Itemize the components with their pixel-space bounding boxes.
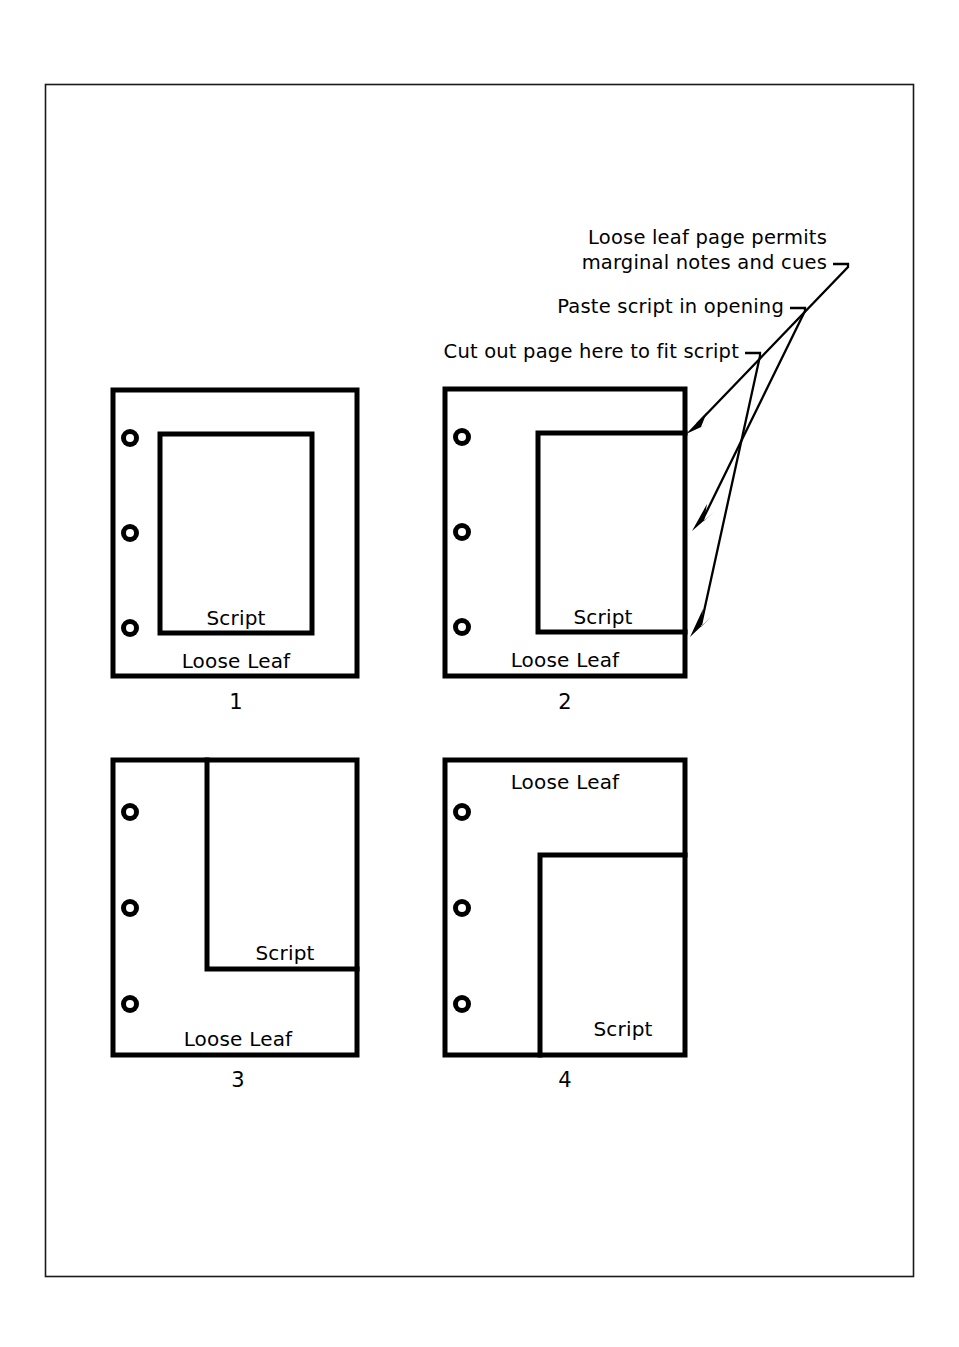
punch-hole-bore [126, 529, 134, 537]
figure-1-script-outline [160, 434, 312, 633]
figure-4: Loose Leaf Script 4 [445, 760, 685, 1092]
arrowhead-cut-out-page [690, 609, 711, 637]
diagram-canvas: Loose leaf page permits marginal notes a… [0, 0, 959, 1347]
punch-hole-bore [126, 624, 134, 632]
figure-4-script-label: Script [593, 1017, 652, 1041]
figure-2: Script Loose Leaf 2 [445, 389, 685, 714]
leader-line-cut-out-page [701, 353, 760, 625]
punch-hole-bore [126, 1000, 134, 1008]
punch-hole-bore [458, 904, 466, 912]
figure-3-script-label: Script [255, 941, 314, 965]
annotation-cut-out-page-line1: Cut out page here to fit script [444, 340, 740, 363]
punch-hole-bore [458, 808, 466, 816]
punch-hole-bore [126, 434, 134, 442]
annotation-loose-leaf-permits-line1: Loose leaf page permits [588, 226, 827, 249]
figure-3-script-opening-outline [207, 760, 357, 969]
figure-2-punch-holes [453, 428, 471, 636]
figure-3-loose-leaf-label: Loose Leaf [184, 1027, 293, 1051]
punch-hole-bore [458, 1000, 466, 1008]
arrowhead-loose-leaf-permits [686, 412, 712, 434]
figure-4-punch-holes [453, 803, 471, 1013]
figure-1-number: 1 [229, 690, 242, 714]
figure-1-script-label: Script [206, 606, 265, 630]
figure-3-loose-leaf-outline [113, 760, 357, 1055]
figure-4-loose-leaf-label: Loose Leaf [511, 770, 620, 794]
figure-3: Script Loose Leaf 3 [113, 760, 357, 1092]
figure-1-punch-holes [121, 429, 139, 637]
diagram-page: Loose leaf page permits marginal notes a… [0, 0, 959, 1347]
figure-2-script-opening-outline [538, 433, 685, 632]
figure-1-loose-leaf-label: Loose Leaf [182, 649, 291, 673]
punch-hole-bore [126, 904, 134, 912]
punch-hole-bore [126, 808, 134, 816]
figure-1: Script Loose Leaf 1 [113, 390, 357, 714]
figure-4-number: 4 [558, 1068, 571, 1092]
punch-hole-bore [458, 528, 466, 536]
figure-3-punch-holes [121, 803, 139, 1013]
figure-4-loose-leaf-outline [445, 760, 685, 1055]
figure-2-number: 2 [558, 690, 571, 714]
figure-3-number: 3 [231, 1068, 244, 1092]
annotation-paste-script-line1: Paste script in opening [557, 295, 784, 318]
punch-hole-bore [458, 623, 466, 631]
figure-2-loose-leaf-label: Loose Leaf [511, 648, 620, 672]
arrowhead-paste-script [692, 504, 714, 531]
annotation-loose-leaf-permits-line2: marginal notes and cues [582, 251, 827, 274]
figure-2-script-label: Script [573, 605, 632, 629]
punch-hole-bore [458, 433, 466, 441]
